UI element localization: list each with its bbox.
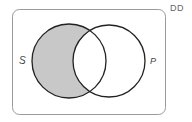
set-label-p: P (150, 56, 156, 66)
venn-diagram (0, 0, 192, 122)
corner-label: DD (170, 3, 184, 13)
set-label-s: S (19, 55, 26, 66)
